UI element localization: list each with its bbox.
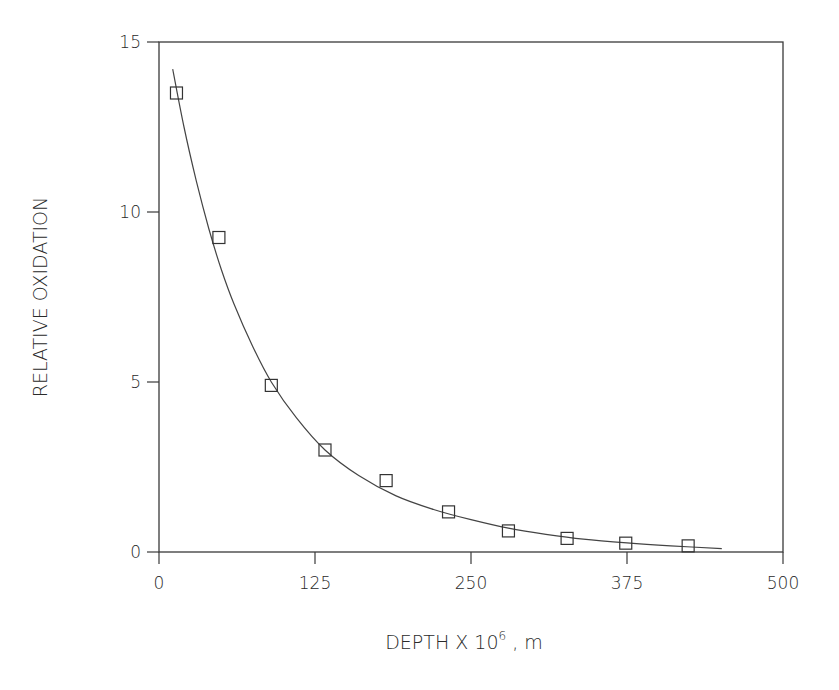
y-tick-label: 0 [130,542,141,562]
plot-frame [159,42,783,552]
data-point-square [502,525,514,537]
x-tick-label: 250 [455,573,487,593]
data-markers [170,87,694,552]
y-axis-title: RELATIVE OXIDATION [29,197,51,398]
x-tick-label: 375 [611,573,643,593]
x-axis-title-exponent: 6 [498,629,506,643]
x-axis-ticks: 0125250375500 [154,552,800,593]
fitted-curve [173,69,722,548]
data-point-square [213,232,225,244]
data-point-square [561,532,573,544]
fit-line [173,69,722,548]
x-tick-label: 125 [299,573,331,593]
x-axis-title-main: DEPTH X 10 [385,631,498,653]
data-point-square [380,475,392,487]
data-point-square [682,540,694,552]
x-tick-label: 0 [154,573,165,593]
plot-border [159,42,783,552]
y-tick-label: 10 [119,202,141,222]
y-axis-ticks: 051015 [119,32,159,562]
x-tick-label: 500 [767,573,799,593]
y-tick-label: 5 [130,372,141,392]
chart: 051015 0125250375500 RELATIVE OXIDATION … [0,0,839,690]
x-axis-title: DEPTH X 106 , m [385,629,543,653]
data-point-square [443,506,455,518]
x-axis-title-suffix: , m [506,631,543,653]
y-tick-label: 15 [119,32,141,52]
